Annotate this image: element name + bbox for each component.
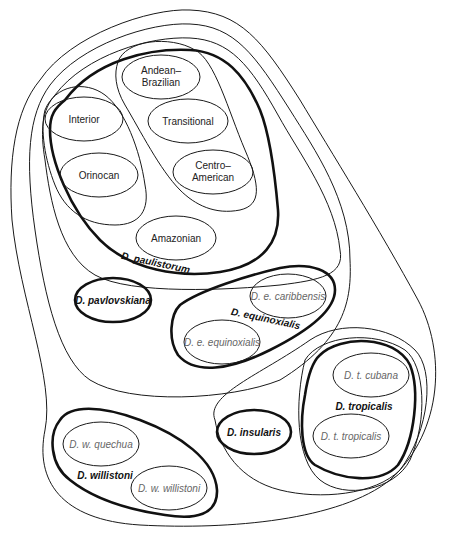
species-insularis: D. insularis xyxy=(217,410,291,454)
paulistorum-outer-boundary xyxy=(42,38,340,290)
semispecies-orinocan: Orinocan xyxy=(60,153,138,197)
species-equinoxialis: D. e. caribbensis D. e. equinoxialis D. … xyxy=(171,266,335,368)
svg-text:Centro–: Centro– xyxy=(195,160,231,171)
species-willistoni: D. w. quechua D. w. willistoni D. willis… xyxy=(53,409,217,517)
svg-text:D. w. willistoni: D. w. willistoni xyxy=(138,483,201,494)
svg-text:Andean–: Andean– xyxy=(141,65,181,76)
svg-text:Transitional: Transitional xyxy=(162,116,213,127)
svg-text:Interior: Interior xyxy=(68,114,100,125)
species-pavlovskiana: D. pavlovskiana xyxy=(75,278,151,322)
svg-text:Amazonian: Amazonian xyxy=(151,233,201,244)
svg-text:D. e. equinoxialis: D. e. equinoxialis xyxy=(184,337,260,348)
svg-text:D. equinoxialis: D. equinoxialis xyxy=(230,306,302,332)
svg-text:D. t. tropicalis: D. t. tropicalis xyxy=(321,431,382,442)
svg-text:D. t. cubana: D. t. cubana xyxy=(344,370,398,381)
svg-text:D. e. caribbensis: D. e. caribbensis xyxy=(251,291,325,302)
svg-text:American: American xyxy=(192,172,234,183)
svg-text:D. w. quechua: D. w. quechua xyxy=(69,439,133,450)
species-tropicalis: D. t. cubana D. tropicalis D. t. tropica… xyxy=(302,341,415,478)
semispecies-transitional: Transitional xyxy=(148,99,228,143)
svg-text:D. pavlovskiana: D. pavlovskiana xyxy=(75,295,151,306)
svg-text:Orinocan: Orinocan xyxy=(79,170,120,181)
semispecies-centro-american: Centro– American xyxy=(173,150,253,194)
drosophila-willistoni-group-diagram: Andean– Brazilian Interior Transitional … xyxy=(0,0,451,544)
semispecies-andean-brazilian: Andean– Brazilian xyxy=(122,55,200,99)
svg-text:Brazilian: Brazilian xyxy=(142,77,180,88)
semispecies-interior: Interior xyxy=(45,97,123,141)
svg-text:D. insularis: D. insularis xyxy=(227,427,281,438)
svg-text:D. tropicalis: D. tropicalis xyxy=(335,401,393,412)
label-paulistorum: D. paulistorum xyxy=(120,250,191,275)
svg-text:D. willistoni: D. willistoni xyxy=(77,470,133,481)
semispecies-amazonian: Amazonian xyxy=(136,216,216,260)
